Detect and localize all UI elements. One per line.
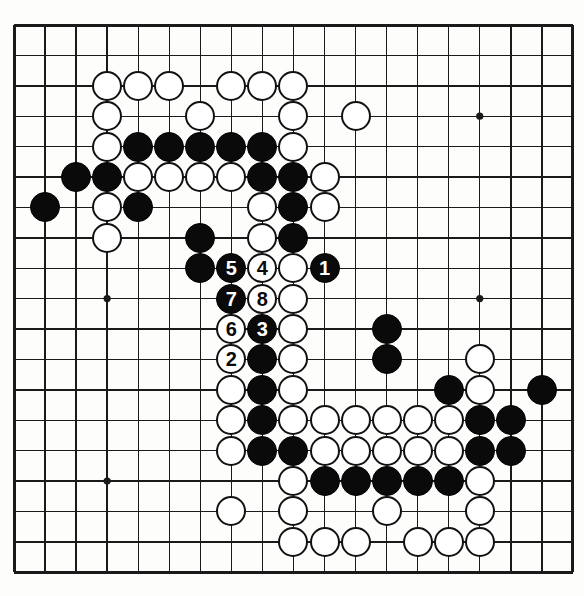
black-stone — [403, 466, 433, 496]
black-stone — [496, 436, 526, 466]
black-stone — [341, 466, 371, 496]
white-stone — [465, 496, 495, 526]
white-stone — [434, 527, 464, 557]
white-stone — [92, 71, 122, 101]
black-stone — [465, 405, 495, 435]
white-stone — [92, 192, 122, 222]
white-stone — [310, 162, 340, 192]
black-stone — [496, 405, 526, 435]
white-stone — [278, 71, 308, 101]
black-stone — [247, 162, 277, 192]
move-stone-8: 8 — [247, 284, 277, 314]
move-number-label: 8 — [257, 289, 268, 309]
move-stone-3: 3 — [247, 314, 277, 344]
white-stone — [247, 192, 277, 222]
move-number-label: 7 — [226, 289, 237, 309]
black-stone — [247, 344, 277, 374]
white-stone — [278, 101, 308, 131]
white-stone — [341, 101, 371, 131]
white-stone — [216, 375, 246, 405]
white-stone — [216, 405, 246, 435]
black-stone — [247, 405, 277, 435]
white-stone — [278, 314, 308, 344]
white-stone — [310, 405, 340, 435]
white-stone — [465, 344, 495, 374]
black-stone — [372, 466, 402, 496]
black-stone — [434, 466, 464, 496]
white-stone — [341, 405, 371, 435]
white-stone — [216, 496, 246, 526]
stone-layer: 54178632 — [0, 0, 584, 596]
white-stone — [278, 527, 308, 557]
black-stone — [247, 436, 277, 466]
move-number-label: 3 — [257, 319, 268, 339]
black-stone — [278, 436, 308, 466]
black-stone — [154, 132, 184, 162]
white-stone — [278, 496, 308, 526]
black-stone — [92, 162, 122, 192]
move-stone-2: 2 — [216, 344, 246, 374]
white-stone — [92, 101, 122, 131]
black-stone — [185, 132, 215, 162]
move-number-label: 6 — [226, 319, 237, 339]
white-stone — [434, 436, 464, 466]
black-stone — [30, 192, 60, 222]
white-stone — [465, 466, 495, 496]
white-stone — [278, 284, 308, 314]
move-number-label: 4 — [257, 258, 268, 278]
black-stone — [278, 192, 308, 222]
black-stone — [434, 375, 464, 405]
white-stone — [310, 436, 340, 466]
white-stone — [372, 436, 402, 466]
black-stone — [247, 375, 277, 405]
white-stone — [341, 527, 371, 557]
move-stone-6: 6 — [216, 314, 246, 344]
white-stone — [403, 527, 433, 557]
black-stone — [123, 192, 153, 222]
white-stone — [372, 405, 402, 435]
white-stone — [92, 223, 122, 253]
white-stone — [92, 132, 122, 162]
white-stone — [216, 436, 246, 466]
move-stone-7: 7 — [216, 284, 246, 314]
black-stone — [465, 436, 495, 466]
white-stone — [247, 71, 277, 101]
black-stone — [372, 344, 402, 374]
white-stone — [154, 162, 184, 192]
white-stone — [278, 132, 308, 162]
white-stone — [216, 162, 246, 192]
black-stone — [372, 314, 402, 344]
black-stone — [61, 162, 91, 192]
white-stone — [185, 101, 215, 131]
move-stone-1: 1 — [310, 253, 340, 283]
white-stone — [247, 223, 277, 253]
black-stone — [123, 132, 153, 162]
white-stone — [278, 344, 308, 374]
white-stone — [372, 496, 402, 526]
white-stone — [341, 436, 371, 466]
white-stone — [278, 375, 308, 405]
white-stone — [216, 71, 246, 101]
white-stone — [278, 405, 308, 435]
white-stone — [403, 405, 433, 435]
black-stone — [185, 223, 215, 253]
white-stone — [278, 253, 308, 283]
white-stone — [123, 162, 153, 192]
white-stone — [465, 527, 495, 557]
black-stone — [185, 253, 215, 283]
white-stone — [154, 71, 184, 101]
white-stone — [434, 405, 464, 435]
black-stone — [278, 162, 308, 192]
move-number-label: 1 — [319, 258, 330, 278]
move-number-label: 5 — [226, 258, 237, 278]
white-stone — [185, 162, 215, 192]
move-number-label: 2 — [226, 349, 237, 369]
white-stone — [310, 192, 340, 222]
white-stone — [310, 527, 340, 557]
white-stone — [278, 466, 308, 496]
go-diagram: 54178632 — [0, 0, 584, 596]
black-stone — [216, 132, 246, 162]
white-stone — [403, 436, 433, 466]
black-stone — [278, 223, 308, 253]
black-stone — [310, 466, 340, 496]
